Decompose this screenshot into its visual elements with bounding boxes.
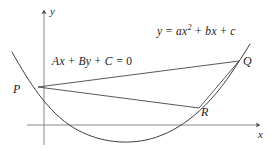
line-eq-plus-2: + [91, 55, 104, 67]
parabola-eq-equals: = [163, 25, 176, 37]
line-eq-coef-c: C [105, 55, 113, 67]
math-figure: y x P Q R Ax + By + C = 0 y = ax2 + bx +… [0, 0, 279, 151]
line-eq-equals: = [113, 55, 126, 67]
x-axis-label: x [258, 129, 263, 140]
y-axis-label: y [50, 6, 55, 17]
point-label-q: Q [243, 55, 252, 67]
parabola-eq-plus-2: + [217, 25, 230, 37]
point-label-r: R [201, 106, 209, 118]
line-eq-zero: 0 [126, 55, 132, 67]
line-eq-plus-1: + [65, 55, 78, 67]
parabola-eq-coef-c: c [230, 25, 236, 37]
line-equation-label: Ax + By + C = 0 [52, 56, 132, 68]
parabola-eq-plus-1: + [192, 25, 205, 37]
segment-RQ [199, 61, 239, 108]
chord-PR [38, 87, 199, 108]
point-label-p: P [13, 83, 21, 95]
parabola-equation-label: y = ax2 + bx + c [157, 26, 236, 38]
line-eq-coef-b: B [78, 55, 85, 67]
figure-canvas [0, 0, 279, 151]
